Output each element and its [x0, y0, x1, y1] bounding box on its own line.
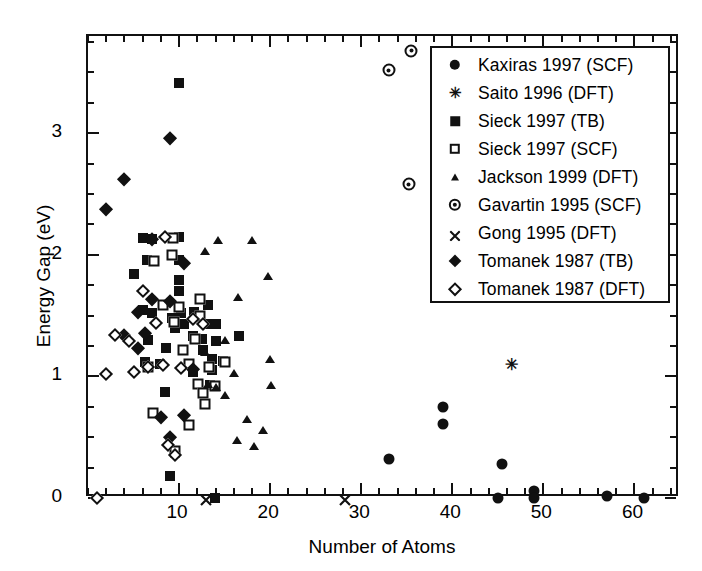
data-point: [149, 255, 160, 266]
axis-tick: [196, 36, 198, 42]
legend-item: Sieck 1997 (TB): [432, 107, 668, 135]
data-point: [219, 356, 230, 367]
data-point: [200, 492, 212, 504]
axis-tick: [306, 36, 308, 42]
axis-tick: [88, 163, 94, 165]
data-point-diamond: [449, 255, 462, 268]
axis-tick: [652, 488, 654, 494]
legend-label: Sieck 1997 (SCF): [478, 139, 618, 160]
legend-marker-open-square-icon: [432, 135, 478, 163]
data-point: [232, 436, 242, 444]
data-point: [184, 420, 195, 431]
legend-marker-triangle-icon: [432, 163, 478, 191]
axis-tick: [488, 488, 490, 494]
legend-marker-circle-icon: [432, 51, 478, 79]
axis-tick: [488, 36, 490, 42]
axis-tick: [433, 488, 435, 494]
axis-tick: [87, 488, 89, 494]
axis-tick: [88, 71, 94, 73]
data-point: [602, 490, 613, 501]
axis-tick: [178, 483, 180, 494]
axis-tick: [397, 488, 399, 494]
legend-item: Jackson 1999 (DFT): [432, 163, 668, 191]
data-point: [90, 491, 104, 505]
data-point: [258, 426, 268, 434]
legend-item: Kaxiras 1997 (SCF): [432, 51, 668, 79]
data-point-circle: [450, 60, 460, 70]
axis-tick: [415, 36, 417, 42]
x-axis-title: Number of Atoms: [309, 536, 456, 558]
legend-item: Sieck 1997 (SCF): [432, 135, 668, 163]
data-point: [249, 442, 259, 450]
axis-tick: [670, 102, 676, 104]
legend-marker-cross-icon: [432, 219, 478, 247]
data-point: [234, 331, 244, 341]
axis-tick: [142, 488, 144, 494]
data-point: [438, 418, 449, 429]
axis-tick: [324, 36, 326, 42]
legend-item: Gavartin 1995 (SCF): [432, 191, 668, 219]
axis-tick: [415, 488, 417, 494]
axis-tick: [123, 488, 125, 494]
axis-tick: [251, 488, 253, 494]
axis-tick: [342, 36, 344, 42]
axis-tick: [233, 488, 235, 494]
axis-tick: [88, 223, 94, 225]
axis-tick: [88, 375, 99, 377]
data-point: [492, 493, 503, 504]
axis-tick: [524, 36, 526, 42]
data-point: [126, 364, 140, 378]
data-point: [220, 391, 230, 399]
axis-tick: [670, 467, 676, 469]
axis-tick: [160, 36, 162, 42]
legend-marker-circle-dot-icon: [432, 191, 478, 219]
axis-tick: [287, 36, 289, 42]
legend-marker-open-diamond-icon: [432, 275, 478, 303]
legend-label: Tomanek 1987 (TB): [478, 251, 633, 272]
axis-tick: [615, 488, 617, 494]
data-point: [199, 399, 210, 410]
axis-tick: [670, 345, 676, 347]
data-point: [99, 202, 112, 215]
data-point: [174, 275, 184, 285]
axis-tick: [506, 36, 508, 42]
legend-label: Saito 1996 (DFT): [478, 83, 614, 104]
axis-tick: [524, 488, 526, 494]
data-point: [118, 173, 131, 186]
data-point-open-square: [450, 144, 460, 154]
y-axis-tick-label: 3: [16, 121, 62, 141]
data-point: [174, 78, 184, 88]
y-axis-title: Energy Gap (eV): [33, 146, 55, 406]
axis-tick: [670, 436, 676, 438]
axis-tick: [670, 488, 672, 494]
legend: Kaxiras 1997 (SCF)✳Saito 1996 (DFT)Sieck…: [430, 46, 670, 303]
data-point-circle-dot: [449, 199, 461, 211]
axis-tick: [251, 36, 253, 42]
axis-tick: [670, 163, 676, 165]
axis-tick: [433, 36, 435, 42]
legend-item: ✳Saito 1996 (DFT): [432, 79, 668, 107]
legend-marker-diamond-icon: [432, 247, 478, 275]
data-point: [163, 131, 176, 144]
axis-tick: [88, 102, 94, 104]
data-point: [165, 471, 175, 481]
data-point: [174, 302, 185, 313]
data-point: [166, 249, 177, 260]
data-point: [203, 380, 213, 388]
axis-tick: [88, 254, 99, 256]
data-point: [247, 236, 257, 244]
data-point-cross: [449, 227, 460, 238]
axis-tick: [105, 488, 107, 494]
y-axis-tick-label: 0: [16, 486, 62, 506]
data-point-star: ✳: [449, 85, 462, 100]
data-point: [263, 272, 273, 280]
data-point: [161, 343, 171, 353]
data-point: [266, 381, 276, 389]
data-point: [129, 269, 139, 279]
data-point: [233, 293, 243, 301]
data-point: [242, 415, 252, 423]
axis-tick: [397, 36, 399, 42]
axis-tick: [670, 223, 676, 225]
data-point: [497, 458, 508, 469]
axis-tick: [88, 132, 99, 134]
